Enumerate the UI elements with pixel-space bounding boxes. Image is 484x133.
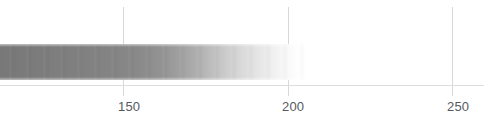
x-tick-label-250: 250 xyxy=(447,99,469,114)
gridline-250 xyxy=(452,7,453,96)
bar-fill xyxy=(0,44,310,80)
x-tick-label-200: 200 xyxy=(282,99,304,114)
gradient-bar-chart: 150 200 250 xyxy=(0,0,484,133)
plot-area: 150 200 250 xyxy=(0,0,484,133)
x-axis-line xyxy=(0,85,484,86)
x-tick-label-150: 150 xyxy=(118,99,140,114)
bar-gradient xyxy=(0,44,310,80)
